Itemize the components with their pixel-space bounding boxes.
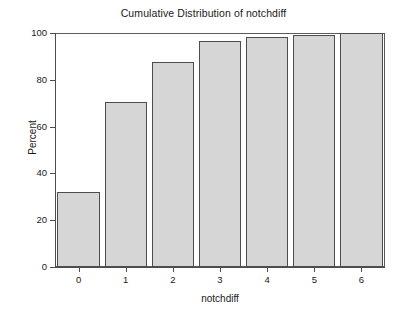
bar-3 (199, 41, 241, 267)
y-tick-label-0: 0 (17, 262, 47, 272)
x-tick-label-3: 3 (200, 275, 240, 285)
x-tick-1 (126, 267, 127, 272)
y-tick-label-100: 100 (17, 28, 47, 38)
x-tick-0 (79, 267, 80, 272)
y-tick-60 (50, 127, 55, 128)
x-tick-4 (267, 267, 268, 272)
chart-title: Cumulative Distribution of notchdiff (0, 7, 407, 19)
y-tick-40 (50, 173, 55, 174)
x-tick-label-0: 0 (59, 275, 99, 285)
chart-figure: Cumulative Distribution of notchdiff 020… (0, 0, 407, 319)
x-tick-label-2: 2 (153, 275, 193, 285)
x-tick-3 (220, 267, 221, 272)
y-tick-label-80: 80 (17, 75, 47, 85)
x-tick-label-5: 5 (294, 275, 334, 285)
y-tick-20 (50, 220, 55, 221)
x-tick-label-6: 6 (341, 275, 381, 285)
bar-6 (340, 33, 382, 267)
x-tick-5 (314, 267, 315, 272)
x-tick-6 (361, 267, 362, 272)
bar-4 (246, 37, 288, 267)
x-tick-label-4: 4 (247, 275, 287, 285)
bars-container (55, 33, 385, 267)
bar-5 (293, 35, 335, 267)
bar-1 (105, 102, 147, 267)
x-tick-2 (173, 267, 174, 272)
y-axis-title: Percent (27, 98, 38, 178)
x-axis-title: notchdiff (55, 293, 385, 304)
y-axis-line (55, 33, 56, 267)
y-tick-80 (50, 80, 55, 81)
x-tick-label-1: 1 (106, 275, 146, 285)
bar-0 (57, 192, 99, 267)
bar-2 (152, 62, 194, 267)
y-tick-100 (50, 33, 55, 34)
y-tick-label-20: 20 (17, 215, 47, 225)
